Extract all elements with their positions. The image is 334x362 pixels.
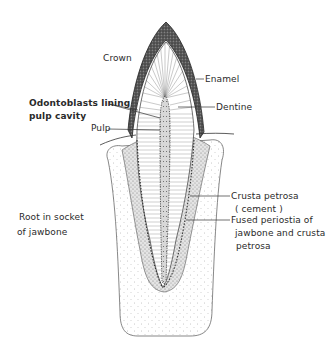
label-pulp: Pulp <box>91 123 111 134</box>
label-fused-periostia-end: petrosa <box>236 241 271 252</box>
label-crown: Crown <box>103 53 132 64</box>
label-fused-periostia: Fused periostia of <box>231 215 313 226</box>
label-odontoblasts: Odontoblasts lining <box>29 98 130 109</box>
label-enamel: Enamel <box>205 74 239 85</box>
label-odontoblasts-cont: pulp cavity <box>29 111 86 122</box>
label-root-in-socket: Root in socket <box>19 212 84 223</box>
label-fused-periostia-cont: jawbone and crusta <box>235 228 325 239</box>
tooth-illustration <box>0 0 334 362</box>
label-crusta-petrosa: Crusta petrosa <box>231 191 299 202</box>
label-root-in-socket-cont: of jawbone <box>17 227 67 238</box>
tooth-diagram: Crown Enamel Dentine Odontoblasts lining… <box>0 0 334 362</box>
label-cement: ( cement ) <box>235 204 283 215</box>
label-dentine: Dentine <box>216 102 252 113</box>
